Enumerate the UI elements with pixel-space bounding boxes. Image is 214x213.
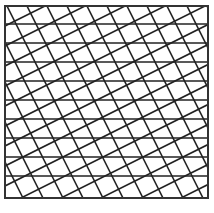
- shallow-diagonal-line: [5, 25, 208, 127]
- shallow-diagonal-line: [5, 5, 208, 107]
- shallow-diagonal-line: [5, 205, 208, 213]
- steep-diagonal-line: [187, 6, 214, 198]
- steep-diagonal-line: [87, 6, 183, 198]
- shallow-diagonal-line: [5, 65, 208, 167]
- steep-diagonal-line: [47, 6, 143, 198]
- steep-diagonal-line: [0, 6, 3, 198]
- steep-diagonal-line: [7, 6, 103, 198]
- lattice-canvas: [0, 0, 214, 212]
- shallow-diagonal-line: [5, 45, 208, 147]
- lattice-lines: [0, 0, 214, 212]
